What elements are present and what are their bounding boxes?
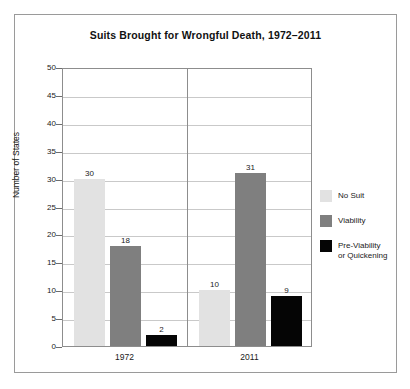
chart-title: Suits Brought for Wrongful Death, 1972–2… (14, 29, 397, 41)
bar (146, 335, 177, 346)
y-axis-tick-label: 5 (36, 315, 56, 323)
y-axis-title: Number of States (11, 85, 21, 245)
bar (199, 290, 230, 346)
y-axis-tick-label: 10 (36, 287, 56, 295)
y-axis-tick-label: 45 (36, 92, 56, 100)
bar-value-label: 9 (267, 287, 307, 295)
y-axis-tick-label: 50 (36, 64, 56, 72)
bar-value-label: 2 (142, 326, 182, 334)
bar-value-label: 31 (231, 164, 271, 172)
y-axis-tick-label: 15 (36, 259, 56, 267)
legend-swatch (320, 190, 332, 202)
x-axis-tick-label: 1972 (85, 353, 165, 362)
y-axis-tick-label: 30 (36, 176, 56, 184)
y-axis-tick-label: 35 (36, 148, 56, 156)
bar-value-label: 30 (70, 170, 110, 178)
legend-item[interactable]: Pre-Viability or Quickening (320, 240, 400, 260)
bar-value-label: 18 (106, 237, 146, 245)
bar (235, 173, 266, 346)
bar (271, 296, 302, 346)
bar (74, 179, 105, 346)
legend-label: Pre-Viability or Quickening (338, 241, 387, 260)
group-divider (187, 69, 188, 346)
plot-area: 3018210319 (62, 68, 312, 347)
y-axis-tick-labels: 50454035302520151050 (32, 68, 56, 347)
chart-legend: No SuitViabilityPre-Viability or Quicken… (320, 190, 400, 273)
legend-item[interactable]: Viability (320, 215, 400, 227)
legend-item[interactable]: No Suit (320, 190, 400, 202)
legend-label: No Suit (338, 191, 364, 201)
y-axis-tick-mark (56, 347, 62, 348)
y-axis-tick-label: 0 (36, 343, 56, 351)
y-axis-tick-label: 40 (36, 120, 56, 128)
y-axis-tick-label: 20 (36, 231, 56, 239)
bar (110, 246, 141, 346)
y-axis-tick-label: 25 (36, 204, 56, 212)
figure-canvas: Suits Brought for Wrongful Death, 1972–2… (0, 0, 410, 389)
bar-value-label: 10 (195, 281, 235, 289)
x-axis-tick-label: 2011 (210, 353, 290, 362)
legend-swatch (320, 240, 332, 252)
legend-swatch (320, 215, 332, 227)
legend-label: Viability (338, 216, 365, 226)
